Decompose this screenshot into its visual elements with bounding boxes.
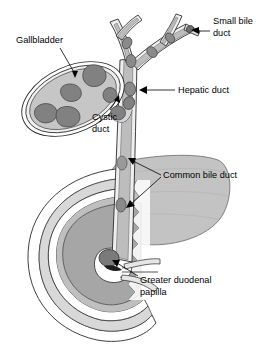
label-greater-duodenal-papilla-line1: Greater duodenal [140, 275, 212, 285]
label-hepatic-duct: Hepatic duct [178, 85, 230, 95]
label-small-bile-duct-line1: Small bile [213, 16, 253, 26]
label-greater-duodenal-papilla-line2: papilla [140, 287, 167, 297]
label-small-bile-duct-line2: duct [213, 28, 231, 38]
duodenum [28, 168, 160, 341]
label-cystic-duct-line1: Cystic [92, 112, 117, 122]
biliary-tract-illustration: Gallbladder Small bile duct Hepatic duct… [0, 0, 270, 346]
label-gallbladder: Gallbladder [16, 35, 63, 45]
label-cystic-duct-line2: duct [92, 124, 110, 134]
label-common-bile-duct: Common bile duct [163, 170, 237, 180]
